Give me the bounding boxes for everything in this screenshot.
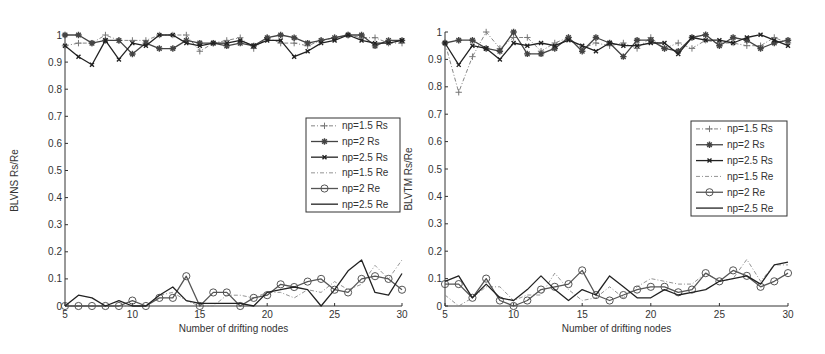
legend-label: np=2.5 Re xyxy=(727,203,774,214)
x-tick-label: 25 xyxy=(714,309,726,320)
star-marker-icon xyxy=(524,51,530,57)
star-marker-icon xyxy=(89,40,95,46)
legend-label: np=1.5 Re xyxy=(342,167,389,178)
star-marker-icon xyxy=(456,37,462,43)
x-tick-label: 30 xyxy=(782,309,794,320)
x-tick-label: 25 xyxy=(329,309,341,320)
legend-label: np=1.5 Rs xyxy=(727,123,773,134)
y-tick-label: 0.6 xyxy=(428,136,442,147)
y-tick-label: 0.8 xyxy=(428,81,442,92)
plus-marker-icon xyxy=(372,35,378,41)
plus-marker-icon xyxy=(593,40,599,46)
y-tick-label: 0.3 xyxy=(428,218,442,229)
series-line xyxy=(441,267,791,310)
star-marker-icon xyxy=(538,51,544,57)
y-axis-label: BLVTM Rs/Re xyxy=(403,147,414,211)
legend-label: np=1.5 Rs xyxy=(342,120,388,131)
series-polyline xyxy=(65,35,402,51)
series-line xyxy=(63,33,404,67)
plus-marker-icon xyxy=(456,89,462,95)
star-marker-icon xyxy=(757,45,763,51)
series-line xyxy=(61,273,405,310)
legend-label: np=2 Rs xyxy=(727,139,765,150)
y-tick-label: 1 xyxy=(56,30,62,41)
star-marker-icon xyxy=(75,32,81,38)
y-tick-label: 0.1 xyxy=(428,273,442,284)
star-marker-icon xyxy=(702,32,708,38)
y-tick-label: 0.1 xyxy=(48,273,62,284)
series-polyline xyxy=(65,35,402,54)
y-tick-label: 0.2 xyxy=(428,246,442,257)
plus-marker-icon xyxy=(689,45,695,51)
star-marker-icon xyxy=(785,37,791,43)
chart-panel-blvns: 00.10.20.30.40.50.60.70.80.9151015202530… xyxy=(9,30,408,335)
y-tick-label: 0.5 xyxy=(428,164,442,175)
star-marker-icon xyxy=(634,37,640,43)
star-marker-icon xyxy=(62,32,68,38)
star-marker-icon xyxy=(321,138,327,144)
x-marker-icon xyxy=(498,57,502,61)
x-tick-label: 20 xyxy=(262,309,274,320)
star-marker-icon xyxy=(291,35,297,41)
series-line xyxy=(445,262,788,300)
legend-label: np=2.5 Rs xyxy=(342,152,388,163)
x-marker-icon xyxy=(76,55,80,59)
star-marker-icon xyxy=(730,34,736,40)
x-tick-label: 15 xyxy=(577,309,589,320)
legend: np=1.5 Rsnp=2 Rsnp=2.5 Rsnp=1.5 Renp=2 R… xyxy=(306,118,400,212)
star-marker-icon xyxy=(156,45,162,51)
legend-label: np=2 Rs xyxy=(342,136,380,147)
star-marker-icon xyxy=(129,51,135,57)
y-axis-label: BLVNS Rs/Re xyxy=(9,149,20,212)
x-axis-label: Number of drifting nodes xyxy=(179,323,289,334)
figure: 00.10.20.30.40.50.60.70.80.9151015202530… xyxy=(0,0,825,354)
plus-marker-icon xyxy=(744,43,750,49)
y-tick-label: 0.7 xyxy=(48,111,62,122)
circle-marker-icon xyxy=(398,286,405,293)
y-tick-label: 0.9 xyxy=(48,57,62,68)
legend: np=1.5 Rsnp=2 Rsnp=2.5 Rsnp=1.5 Renp=2 R… xyxy=(691,121,787,216)
plus-marker-icon xyxy=(469,53,475,59)
x-tick-label: 15 xyxy=(194,309,206,320)
legend-label: np=2.5 Rs xyxy=(727,155,773,166)
y-tick-label: 0.9 xyxy=(428,54,442,65)
x-tick-label: 5 xyxy=(62,309,68,320)
y-tick-label: 0.6 xyxy=(48,138,62,149)
legend-label: np=2 Re xyxy=(342,183,381,194)
star-marker-icon xyxy=(116,37,122,43)
star-marker-icon xyxy=(170,45,176,51)
y-tick-label: 0.8 xyxy=(48,84,62,95)
chart-panel-blvtm: 00.10.20.30.40.50.60.70.80.9151015202530… xyxy=(403,27,794,335)
y-tick-label: 0.2 xyxy=(48,246,62,257)
x-marker-icon xyxy=(90,63,94,67)
star-marker-icon xyxy=(716,43,722,49)
series-polyline xyxy=(445,262,788,300)
star-marker-icon xyxy=(706,142,712,148)
star-marker-icon xyxy=(469,37,475,43)
x-marker-icon xyxy=(117,57,121,61)
y-tick-label: 0.3 xyxy=(48,219,62,230)
star-marker-icon xyxy=(277,32,283,38)
x-tick-label: 10 xyxy=(508,309,520,320)
star-marker-icon xyxy=(304,40,310,46)
star-marker-icon xyxy=(497,48,503,54)
star-marker-icon xyxy=(579,48,585,54)
y-tick-label: 0.5 xyxy=(48,165,62,176)
x-tick-label: 5 xyxy=(442,309,448,320)
x-axis-label: Number of drifting nodes xyxy=(562,323,672,334)
legend-label: np=1.5 Re xyxy=(727,171,774,182)
legend-label: np=2.5 Re xyxy=(342,199,389,210)
star-marker-icon xyxy=(358,32,364,38)
x-tick-label: 30 xyxy=(396,309,408,320)
series-line xyxy=(62,32,405,57)
plus-marker-icon xyxy=(197,48,203,54)
x-tick-label: 10 xyxy=(127,309,139,320)
y-tick-label: 0.4 xyxy=(428,191,442,202)
star-marker-icon xyxy=(661,45,667,51)
y-tick-label: 0.4 xyxy=(48,192,62,203)
y-tick-label: 0.7 xyxy=(428,109,442,120)
plus-marker-icon xyxy=(675,40,681,46)
x-tick-label: 20 xyxy=(645,309,657,320)
star-marker-icon xyxy=(510,29,516,35)
legend-label: np=2 Re xyxy=(727,187,766,198)
